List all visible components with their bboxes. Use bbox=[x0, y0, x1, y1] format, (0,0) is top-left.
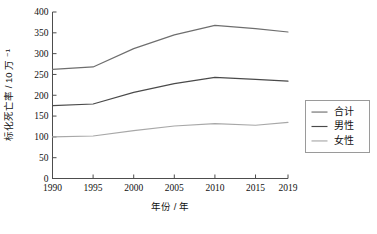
x-axis-title: 年份 / 年 bbox=[151, 201, 189, 212]
y-tick-label: 150 bbox=[34, 111, 49, 121]
x-tick-label: 1990 bbox=[43, 183, 62, 193]
y-tick-label: 200 bbox=[34, 91, 49, 101]
x-tick-label: 2015 bbox=[246, 183, 265, 193]
y-tick-label: 50 bbox=[39, 153, 49, 163]
line-chart: 050100150200250300350400 199019952000200… bbox=[0, 0, 377, 234]
x-tick-label: 2019 bbox=[279, 183, 298, 193]
legend-label-合计: 合计 bbox=[334, 105, 354, 117]
x-tick-label: 2000 bbox=[124, 183, 143, 193]
legend-label-男性: 男性 bbox=[334, 119, 354, 131]
y-tick-label: 100 bbox=[34, 132, 49, 142]
y-tick-label: 250 bbox=[34, 70, 49, 80]
x-tick-label: 1995 bbox=[84, 183, 103, 193]
legend-label-女性: 女性 bbox=[334, 134, 354, 146]
y-tick-label: 300 bbox=[34, 49, 49, 59]
y-tick-label: 350 bbox=[34, 28, 49, 38]
y-axis-title: 标化死亡率 / 10 万 ⁻¹ bbox=[3, 49, 14, 141]
y-tick-label: 400 bbox=[34, 7, 49, 17]
chart-figure: 050100150200250300350400 199019952000200… bbox=[0, 0, 377, 234]
x-tick-label: 2010 bbox=[205, 183, 224, 193]
x-tick-label: 2005 bbox=[165, 183, 184, 193]
chart-legend: 合计男性女性 bbox=[306, 101, 370, 153]
